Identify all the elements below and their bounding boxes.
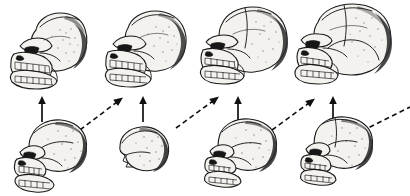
figure-canvas: Hominid Cranial Evolution Sequence Four-… bbox=[0, 0, 410, 196]
fossil-specimen-2 bbox=[120, 127, 169, 172]
hominid-evolution-figure: Hominid Cranial Evolution Sequence Four-… bbox=[0, 0, 410, 196]
